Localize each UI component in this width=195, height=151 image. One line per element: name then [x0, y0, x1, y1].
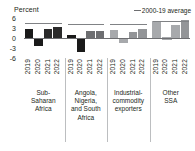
x-axis-year-label: 2019	[110, 59, 117, 74]
group-separator	[107, 58, 108, 142]
x-axis-year-label: 2020	[77, 59, 84, 74]
x-axis-year-label: 2019	[68, 59, 75, 74]
x-axis-year-label: 2020	[35, 59, 42, 74]
category-label-line: Saharan	[24, 97, 63, 105]
average-reference-line	[110, 24, 147, 25]
bar	[96, 31, 104, 38]
x-axis-year-label: 2022	[139, 59, 146, 74]
category-label-line: exporters	[109, 105, 148, 113]
bar	[86, 31, 94, 38]
bar	[171, 25, 179, 38]
category-label-line: SSA	[152, 97, 191, 105]
category-label-line: commodity	[109, 97, 148, 105]
average-reference-line	[68, 24, 105, 25]
average-reference-line	[153, 21, 190, 22]
x-axis-year-label: 2020	[162, 59, 169, 74]
category-label-line: Angola,	[67, 89, 106, 97]
category-label-line: Other	[152, 89, 191, 97]
legend-line-marker	[134, 10, 141, 11]
category-label-line: Africa	[67, 114, 106, 122]
x-axis-category-label: Industrial-commodityexporters	[109, 89, 148, 114]
bar	[181, 20, 189, 38]
x-axis-year-label: 2022	[97, 59, 104, 74]
bar	[77, 38, 85, 52]
y-axis-tick-label: -3	[2, 45, 16, 52]
bar	[25, 29, 33, 38]
x-axis-category-label: OtherSSA	[152, 89, 191, 105]
bar	[110, 30, 118, 38]
chart-figure: Percent 2000-19 average 630-3-6 20192020…	[0, 0, 195, 151]
y-axis-tick-label: -6	[2, 55, 16, 62]
y-axis-tick-label: 0	[2, 35, 16, 42]
legend-label: 2000-19 average	[142, 7, 191, 14]
x-axis-year-label: 2021	[130, 59, 137, 74]
y-axis-tick-label: 6	[2, 15, 16, 22]
group-separator	[150, 58, 151, 142]
zero-baseline	[24, 38, 190, 39]
x-axis-year-label: 2022	[182, 59, 189, 74]
x-axis-year-label: 2020	[120, 59, 127, 74]
x-axis-category-label: Angola,Nigeria,and SouthAfrica	[67, 89, 106, 122]
x-axis-year-label: 2022	[54, 59, 61, 74]
x-axis-year-label: 2021	[172, 59, 179, 74]
bar	[152, 21, 160, 38]
category-label-line: Industrial-	[109, 89, 148, 97]
x-axis-category-label: Sub-SaharanAfrica	[24, 89, 63, 114]
bar	[44, 29, 52, 38]
y-axis-tick-label: 3	[2, 25, 16, 32]
y-axis-unit-label: Percent	[14, 6, 39, 13]
x-axis-year-label: 2019	[153, 59, 160, 74]
chart-legend: 2000-19 average	[134, 7, 191, 14]
average-reference-line	[25, 23, 62, 24]
x-axis: 2019202020212022Sub-SaharanAfrica2019202…	[24, 58, 190, 151]
bar	[34, 38, 42, 46]
bar	[138, 29, 146, 38]
group-separator	[65, 58, 66, 142]
category-label-line: Sub-	[24, 89, 63, 97]
category-label-line: Nigeria,	[67, 97, 106, 105]
x-axis-year-label: 2019	[25, 59, 32, 74]
x-axis-year-label: 2021	[87, 59, 94, 74]
bar	[53, 27, 61, 38]
category-label-line: and South	[67, 105, 106, 113]
x-axis-year-label: 2021	[45, 59, 52, 74]
category-label-line: Africa	[24, 105, 63, 113]
